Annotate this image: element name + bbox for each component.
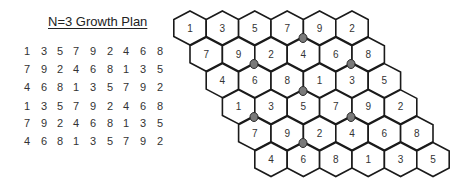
hex-label: 4	[220, 75, 226, 86]
marker-dot	[299, 87, 307, 96]
hex-label: 3	[268, 101, 274, 112]
hex-cell: 4	[255, 143, 287, 177]
hex-label: 2	[398, 101, 404, 112]
hex-label: 6	[333, 49, 339, 60]
hex-label: 6	[301, 154, 307, 165]
hex-cell: 3	[384, 143, 416, 177]
hex-label: 4	[349, 128, 355, 139]
hex-label: 2	[317, 128, 323, 139]
hex-label: 7	[284, 23, 290, 34]
marker-dot	[347, 113, 355, 122]
hex-label: 1	[317, 75, 323, 86]
marker-dot	[299, 34, 307, 43]
hex-label: 6	[382, 128, 388, 139]
hex-label: 2	[349, 23, 355, 34]
hex-cell: 8	[320, 143, 352, 177]
hex-label: 9	[236, 49, 242, 60]
hex-label: 7	[252, 128, 258, 139]
hex-label: 1	[365, 154, 371, 165]
hex-cell: 1	[352, 143, 384, 177]
marker-dot	[250, 60, 258, 69]
hex-label: 9	[317, 23, 323, 34]
hex-label: 8	[284, 75, 290, 86]
hex-label: 9	[365, 101, 371, 112]
hex-label: 5	[430, 154, 436, 165]
hex-label: 8	[414, 128, 420, 139]
hex-label: 4	[301, 49, 307, 60]
hex-label: 3	[349, 75, 355, 86]
hex-label: 2	[268, 49, 274, 60]
marker-dot	[347, 60, 355, 69]
hex-label: 1	[236, 101, 242, 112]
marker-dot	[250, 113, 258, 122]
hex-label: 4	[268, 154, 274, 165]
hex-label: 9	[284, 128, 290, 139]
hex-label: 7	[203, 49, 209, 60]
hex-cell: 5	[417, 143, 449, 177]
hex-label: 5	[252, 23, 258, 34]
hex-label: 3	[220, 23, 226, 34]
hex-label: 3	[398, 154, 404, 165]
hex-label: 8	[333, 154, 339, 165]
hex-label: 5	[382, 75, 388, 86]
hex-label: 6	[252, 75, 258, 86]
hex-label: 1	[187, 23, 193, 34]
hex-label: 7	[333, 101, 339, 112]
hex-label: 5	[301, 101, 307, 112]
marker-dot	[299, 139, 307, 148]
hex-map: 135792792468468135135792792468468135	[0, 0, 471, 185]
hex-label: 8	[365, 49, 371, 60]
